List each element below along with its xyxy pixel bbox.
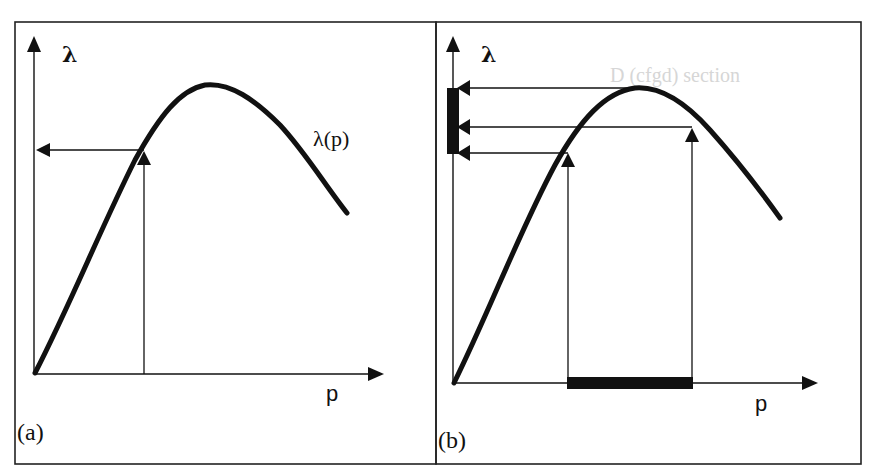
panel-a-label: (a) xyxy=(17,420,44,444)
panel-a-curve-label: λ(p) xyxy=(313,128,349,150)
panel-b-y-axis-label: λ xyxy=(481,43,496,65)
panel-b-up-arrow-high-icon xyxy=(685,128,699,142)
panel-a-left-arrow-icon xyxy=(36,143,50,157)
panel-b-p-interval-bar xyxy=(567,377,693,389)
panel-b-lambda-interval-bar xyxy=(447,88,459,154)
panel-b-label: (b) xyxy=(438,428,466,452)
panel-a xyxy=(15,22,436,464)
panel-b-y-axis-arrow-icon xyxy=(446,36,460,52)
panel-b-curve xyxy=(454,88,780,383)
panel-a-y-axis-arrow-icon xyxy=(27,36,41,52)
panel-b xyxy=(436,22,861,464)
panel-a-x-axis-arrow-icon xyxy=(368,367,384,381)
panel-a-curve xyxy=(35,85,347,373)
panel-a-y-axis-label: λ xyxy=(62,43,77,65)
panel-a-x-axis-label: p xyxy=(326,383,338,405)
diagram-canvas xyxy=(0,0,872,473)
panel-b-x-axis-arrow-icon xyxy=(802,376,818,390)
panel-b-x-axis-label: p xyxy=(755,393,767,415)
figure: D (cfgd) section xyxy=(0,0,872,473)
